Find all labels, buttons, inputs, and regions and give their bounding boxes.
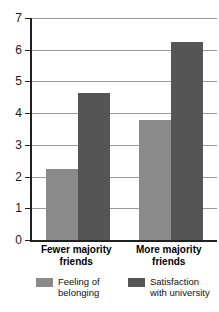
category-label: More majorityfriends — [125, 244, 214, 267]
legend-label: Feeling of belonging — [58, 276, 100, 298]
y-axis-tick-label: 3 — [4, 139, 22, 151]
bar — [78, 93, 110, 240]
legend-label: Satisfaction with university — [150, 276, 210, 298]
category-label-line: friends — [125, 256, 214, 268]
y-axis-tick-label: 0 — [4, 234, 22, 246]
y-axis-tick-label: 5 — [4, 75, 22, 87]
y-axis-tick-label: 4 — [4, 107, 22, 119]
plot-area: 01234567 — [0, 0, 219, 250]
bars-layer — [32, 0, 217, 250]
y-axis-tick-label: 1 — [4, 202, 22, 214]
y-axis-tick-label: 2 — [4, 171, 22, 183]
category-labels: Fewer majorityfriendsMore majorityfriend… — [30, 244, 217, 274]
category-label-line: More majority — [125, 244, 214, 256]
category-label-line: Fewer majority — [32, 244, 121, 256]
bar — [171, 42, 203, 240]
bar — [46, 169, 78, 240]
y-axis-tick-label: 7 — [4, 12, 22, 24]
legend-swatch — [128, 278, 145, 287]
legend-item[interactable]: Satisfaction with university — [128, 276, 210, 298]
y-axis-tick-label: 6 — [4, 44, 22, 56]
y-axis-tick-labels: 01234567 — [4, 0, 22, 250]
category-label: Fewer majorityfriends — [32, 244, 121, 267]
chart-legend: Feeling of belongingSatisfaction with un… — [0, 276, 219, 310]
bar — [139, 120, 171, 241]
legend-item[interactable]: Feeling of belonging — [36, 276, 100, 298]
category-label-line: friends — [32, 256, 121, 268]
bar-chart: 01234567 Fewer majorityfriendsMore major… — [0, 0, 219, 312]
legend-swatch — [36, 278, 53, 287]
